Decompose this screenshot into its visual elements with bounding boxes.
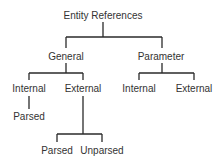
node-general-external-unparsed: Unparsed (80, 145, 123, 156)
entity-references-tree-diagram: Entity References General Parameter Inte… (0, 0, 221, 162)
node-general-external-parsed: Parsed (41, 145, 73, 156)
node-parameter: Parameter (138, 51, 185, 62)
node-parameter-internal: Internal (122, 83, 155, 94)
node-entity-references: Entity References (64, 10, 143, 21)
node-general: General (48, 51, 84, 62)
node-parameter-external: External (176, 83, 213, 94)
node-general-internal: Internal (12, 83, 45, 94)
node-general-external: External (65, 83, 102, 94)
node-general-internal-parsed: Parsed (13, 111, 45, 122)
